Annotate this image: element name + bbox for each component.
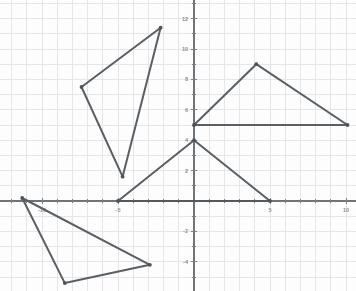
y-axis-tick-label: 10 bbox=[182, 46, 188, 52]
vertex-point bbox=[80, 85, 84, 89]
vertex-point bbox=[121, 175, 125, 179]
coordinate-plane-figure: -10-5510-4-224681012 bbox=[0, 0, 356, 291]
y-axis-tick-label: 2 bbox=[185, 168, 188, 174]
x-axis-tick-label: -5 bbox=[116, 207, 121, 213]
y-axis-tick-label: 12 bbox=[182, 16, 188, 22]
vertex-point bbox=[63, 281, 67, 285]
y-axis-tick-label: -2 bbox=[183, 228, 188, 234]
vertex-point bbox=[192, 138, 196, 142]
grid-layer bbox=[0, 0, 356, 291]
vertex-point bbox=[192, 123, 196, 127]
vertex-point bbox=[159, 26, 163, 30]
plot-svg: -10-5510-4-224681012 bbox=[0, 0, 356, 291]
vertex-point bbox=[20, 196, 24, 200]
vertex-point bbox=[116, 199, 120, 203]
vertex-point bbox=[346, 123, 350, 127]
x-axis-tick-label: 10 bbox=[343, 207, 349, 213]
vertex-point bbox=[148, 263, 152, 267]
vertex-point bbox=[254, 62, 258, 66]
vertex-point bbox=[268, 199, 272, 203]
y-axis-tick-label: 6 bbox=[185, 107, 188, 113]
x-axis-tick-label: 5 bbox=[268, 207, 271, 213]
axis-layer bbox=[0, 0, 356, 291]
y-axis-tick-label: 8 bbox=[185, 76, 188, 82]
